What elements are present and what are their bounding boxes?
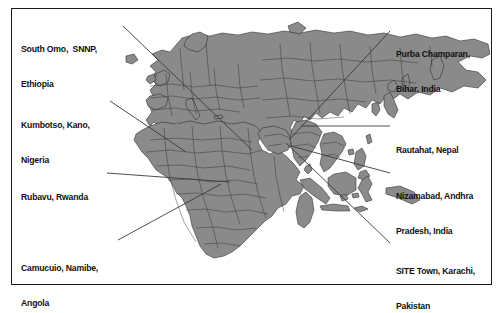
label-kumbotso-kano-line-1: Kumbotso, Kano, xyxy=(21,120,90,132)
label-camucuio-line-2: Angola xyxy=(21,298,98,310)
label-nizamabad-line-1: Nizamabad, Andhra xyxy=(396,191,473,203)
label-kumbotso-kano-line-2: Nigeria xyxy=(21,155,90,167)
label-site-town-karachi-line-2: Pakistan xyxy=(396,301,475,313)
label-camucuio-line-1: Camucuio, Namibe, xyxy=(21,263,98,275)
label-nizamabad-line-2: Pradesh, India xyxy=(396,226,473,238)
label-site-town-karachi: SITE Town, Karachi, Pakistan xyxy=(396,243,475,313)
label-camucuio: Camucuio, Namibe, Angola xyxy=(21,240,98,313)
label-site-town-karachi-line-1: SITE Town, Karachi, xyxy=(396,266,475,278)
label-south-omo-line-1: South Omo, SNNP, xyxy=(21,44,97,56)
label-purba-champaran-line-1: Purba Champaran, xyxy=(396,49,470,61)
label-south-omo-line-2: Ethiopia xyxy=(21,79,97,91)
label-purba-champaran: Purba Champaran, Bihar, India xyxy=(396,26,470,119)
label-rubavu: Rubavu, Rwanda xyxy=(21,169,88,227)
label-rautahat-line-1: Rautahat, Nepal xyxy=(396,145,459,157)
label-rubavu-line-1: Rubavu, Rwanda xyxy=(21,192,88,204)
label-purba-champaran-line-2: Bihar, India xyxy=(396,84,470,96)
